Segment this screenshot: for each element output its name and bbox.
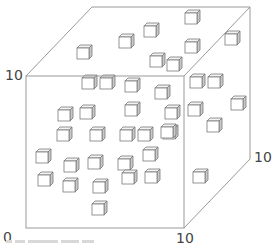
label-y-max: 10 xyxy=(254,150,272,164)
unit-cube xyxy=(63,178,78,192)
faint-caption-bar xyxy=(6,240,176,244)
unit-cube xyxy=(80,105,95,119)
unit-cube xyxy=(190,74,205,88)
unit-cube xyxy=(231,96,246,110)
unit-cube xyxy=(208,74,223,88)
unit-cube xyxy=(188,102,203,116)
unit-cube xyxy=(138,127,153,141)
unit-cube xyxy=(88,155,103,169)
unit-cube xyxy=(225,31,240,45)
unit-cube xyxy=(161,124,176,138)
unit-cube xyxy=(144,23,159,37)
unit-cube xyxy=(155,85,170,99)
unit-cube xyxy=(93,179,108,193)
unit-cube xyxy=(119,34,134,48)
unit-cube xyxy=(165,105,180,119)
unit-cube xyxy=(92,201,107,215)
unit-cube xyxy=(185,39,200,53)
unit-cube xyxy=(185,10,200,24)
cube-diagram: 10 0 10 10 xyxy=(0,0,274,250)
unit-cube xyxy=(207,118,222,132)
unit-cube xyxy=(120,127,135,141)
wireframe-cube-figure xyxy=(0,0,274,250)
unit-cube xyxy=(36,149,51,163)
unit-cube xyxy=(193,169,208,183)
unit-cube xyxy=(125,78,140,92)
unit-cube xyxy=(90,127,105,141)
unit-cube xyxy=(100,75,115,89)
unit-cube xyxy=(150,53,165,67)
unit-cube xyxy=(82,75,97,89)
unit-cube xyxy=(58,107,73,121)
unit-cube xyxy=(57,127,72,141)
unit-cube xyxy=(143,147,158,161)
unit-cube xyxy=(167,57,182,71)
unit-cube xyxy=(125,102,140,116)
unit-cube xyxy=(77,45,92,59)
unit-cube xyxy=(118,156,133,170)
unit-cube xyxy=(64,158,79,172)
unit-cube xyxy=(145,169,160,183)
unit-cube xyxy=(122,170,137,184)
label-x-max: 10 xyxy=(176,231,194,245)
label-z-max: 10 xyxy=(5,68,23,82)
unit-cube xyxy=(38,172,53,186)
